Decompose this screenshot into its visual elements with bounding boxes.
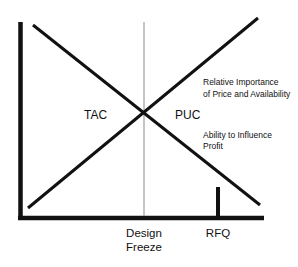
rfq-label: RFQ [206,227,230,239]
relative-importance-label-line2: of Price and Availability [203,89,291,99]
procurement-timeline-diagram: TAC PUC Relative Importance of Price and… [0,0,298,267]
ability-to-influence-label-line1: Ability to Influence [203,130,272,140]
ability-to-influence-label-line2: Profit [203,141,223,151]
ability-to-influence-profit-line [33,25,260,205]
puc-label: PUC [175,108,201,122]
design-freeze-label-line1: Design [126,227,162,239]
design-freeze-label-line2: Freeze [126,241,162,253]
tac-label: TAC [84,108,107,122]
relative-importance-label-line1: Relative Importance [203,77,279,87]
